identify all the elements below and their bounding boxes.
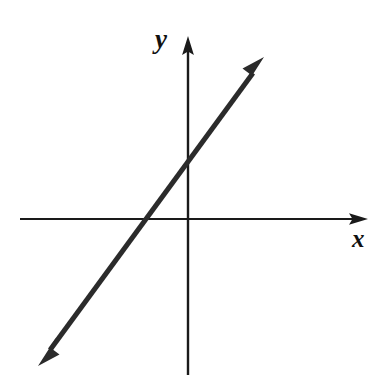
y-axis-label: y (155, 26, 167, 53)
x-axis-label: x (352, 226, 365, 251)
cartesian-plane-svg (0, 0, 385, 375)
plotted-line (50, 73, 253, 350)
graph-figure: y x (0, 0, 385, 375)
